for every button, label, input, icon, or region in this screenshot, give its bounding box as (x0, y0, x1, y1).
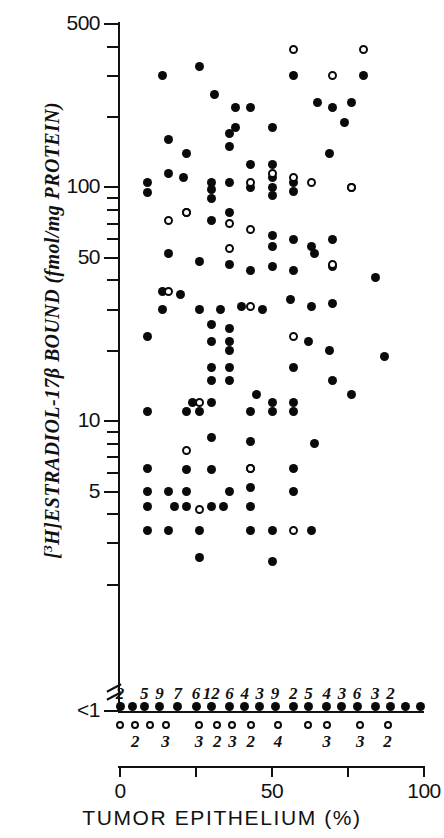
x-axis-tick-label: 50 (252, 779, 292, 803)
data-point-filled (164, 169, 173, 178)
census-open-circle (247, 721, 255, 729)
census-open-count: 2 (376, 732, 400, 752)
census-open-count: 4 (266, 732, 290, 752)
data-point-filled (289, 407, 298, 416)
data-point-open (289, 526, 298, 535)
data-point-filled (246, 266, 255, 275)
data-point-filled (195, 526, 204, 535)
data-point-filled (268, 242, 277, 251)
data-point-filled (176, 290, 185, 299)
census-open-circle (116, 721, 124, 729)
data-point-filled (179, 173, 188, 182)
x-axis-tick (347, 766, 349, 777)
y-axis-tick-label: 10 (78, 408, 100, 432)
data-point-filled (225, 208, 234, 217)
data-point-filled (143, 526, 152, 535)
y-axis-major-tick (104, 23, 119, 25)
data-point-filled (289, 487, 298, 496)
scatter-plot-figure: [3H]ESTRADIOL-17β BOUND (fmol/mg PROTEIN… (0, 0, 444, 838)
data-point-filled (225, 487, 234, 496)
data-point-filled (210, 90, 219, 99)
data-point-filled (207, 433, 216, 442)
x-axis-tick (423, 766, 425, 777)
data-point-filled (207, 502, 216, 511)
y-axis-minor-tick (107, 75, 119, 77)
x-axis-tick-label: 100 (404, 779, 444, 803)
y-axis-minor-tick (107, 209, 119, 211)
census-filled-count: 2 (108, 684, 132, 704)
data-point-filled (207, 337, 216, 346)
data-point-open (164, 216, 173, 225)
data-point-filled (246, 502, 255, 511)
data-point-filled (143, 407, 152, 416)
data-point-filled (328, 103, 337, 112)
census-open-circle (213, 721, 221, 729)
x-axis-title: TUMOR EPITHELIUM (%) (0, 806, 444, 830)
data-point-filled (310, 249, 319, 258)
y-axis-line (118, 22, 120, 712)
y-axis-minor-tick (107, 197, 119, 199)
data-point-filled (246, 103, 255, 112)
y-axis-tick-label: <1 (77, 698, 100, 722)
data-point-open (164, 287, 173, 296)
data-point-filled (164, 487, 173, 496)
data-point-filled (307, 302, 316, 311)
census-open-circle (384, 721, 392, 729)
data-point-filled (207, 194, 216, 203)
data-point-open (289, 332, 298, 341)
census-open-count: 2 (123, 732, 147, 752)
data-point-open (225, 219, 234, 228)
data-point-filled (164, 249, 173, 258)
y-axis-major-tick (104, 710, 119, 712)
data-point-filled (328, 235, 337, 244)
census-open-count: 3 (154, 732, 178, 752)
data-point-filled (143, 178, 152, 187)
census-open-count: 3 (315, 732, 339, 752)
y-axis-title: [3H]ESTRADIOL-17β BOUND (fmol/mg PROTEIN… (40, 30, 65, 630)
y-axis-minor-tick (107, 584, 119, 586)
data-point-open (328, 71, 337, 80)
data-point-filled (289, 398, 298, 407)
data-point-filled (268, 123, 277, 132)
data-point-open (246, 225, 255, 234)
data-point-open (347, 183, 356, 192)
data-point-filled (225, 324, 234, 333)
data-point-filled (158, 71, 167, 80)
data-point-filled (246, 437, 255, 446)
data-point-filled (325, 346, 334, 355)
y-axis-minor-tick (107, 309, 119, 311)
data-point-filled (340, 118, 349, 127)
data-point-filled (268, 526, 277, 535)
data-point-filled (195, 62, 204, 71)
census-filled-dot (128, 702, 137, 711)
data-point-filled (268, 191, 277, 200)
y-axis-tick-label: 5 (89, 479, 100, 503)
data-point-filled (231, 103, 240, 112)
data-point-filled (225, 337, 234, 346)
data-point-filled (182, 487, 191, 496)
census-open-count: 2 (239, 732, 263, 752)
data-point-filled (289, 464, 298, 473)
census-open-circle (304, 721, 312, 729)
data-point-filled (347, 390, 356, 399)
x-axis-tick (195, 766, 197, 777)
data-point-filled (225, 142, 234, 151)
y-axis-minor-tick (107, 279, 119, 281)
data-point-filled (143, 332, 152, 341)
data-point-filled (225, 178, 234, 187)
data-point-filled (143, 464, 152, 473)
census-filled-count: 2 (379, 684, 403, 704)
x-axis-tick (271, 766, 273, 777)
data-point-open (359, 45, 368, 54)
census-open-circle (146, 721, 154, 729)
census-filled-dot (401, 702, 410, 711)
data-point-filled (289, 71, 298, 80)
data-point-open (328, 260, 337, 269)
data-point-open (246, 464, 255, 473)
y-axis-tick-label: 100 (66, 174, 100, 198)
y-axis-tick-label: 50 (78, 245, 100, 269)
data-point-filled (268, 160, 277, 169)
data-point-filled (289, 235, 298, 244)
data-point-filled (307, 526, 316, 535)
x-axis-tick-label: 0 (100, 779, 140, 803)
